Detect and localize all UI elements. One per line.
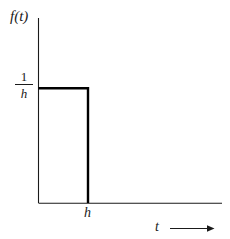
plot-canvas bbox=[0, 0, 230, 239]
pulse-curve bbox=[39, 88, 89, 203]
pulse-function-figure: f(t) 1 h h t bbox=[0, 0, 230, 239]
x-axis-label: t bbox=[155, 220, 159, 234]
x-axis-tick-label-h: h bbox=[84, 206, 91, 220]
fraction-bar bbox=[15, 84, 33, 85]
fraction-denominator: h bbox=[13, 86, 35, 100]
y-axis-label: f(t) bbox=[10, 9, 28, 24]
y-axis-tick-label-one-over-h: 1 h bbox=[13, 70, 35, 100]
arrow-right-icon-head bbox=[207, 225, 215, 231]
fraction-numerator: 1 bbox=[13, 70, 35, 84]
